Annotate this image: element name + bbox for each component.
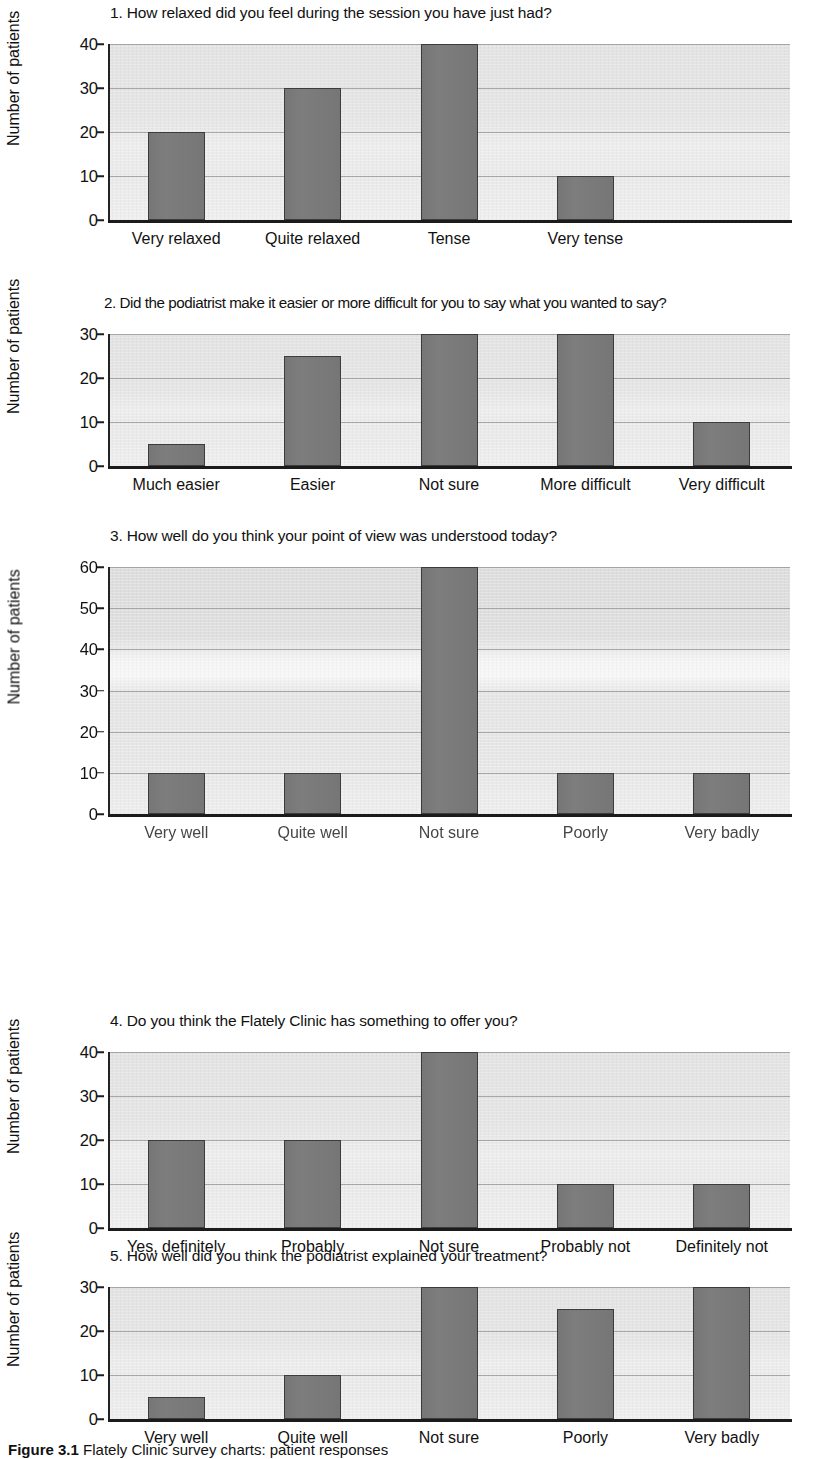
x-axis-line (108, 1228, 792, 1231)
x-tick-label: Very difficult (679, 476, 765, 494)
y-tick-label: 40 (80, 641, 98, 658)
y-axis-line (108, 334, 110, 467)
bar (284, 773, 341, 814)
y-tick-label: 10 (80, 168, 98, 185)
bar (693, 1184, 750, 1228)
x-tick-label: Easier (290, 476, 335, 494)
y-axis-ticks: 0102030 (60, 1287, 104, 1419)
bar (421, 334, 478, 466)
chart-q5: 5. How well did you think the podiatrist… (0, 1265, 826, 1459)
x-tick-label: Quite well (277, 824, 347, 842)
y-axis-line (108, 567, 110, 815)
x-tick-label: Quite relaxed (265, 230, 360, 248)
plot-area (108, 44, 790, 220)
y-axis-label: Number of patients (0, 567, 28, 814)
y-tick-mark (97, 1330, 104, 1332)
y-tick-label: 20 (80, 124, 98, 141)
bar (693, 422, 750, 466)
x-tick-label: Not sure (419, 1429, 479, 1447)
y-tick-mark (97, 1095, 104, 1097)
y-tick-mark (97, 1286, 104, 1288)
y-tick-mark (97, 1418, 104, 1420)
y-tick-label: 10 (80, 1367, 98, 1384)
y-tick-label: 40 (80, 1044, 98, 1061)
y-tick-label: 30 (80, 80, 98, 97)
chart-q2: 2. Did the podiatrist make it easier or … (0, 312, 826, 514)
y-axis-label: Number of patients (0, 44, 28, 220)
x-tick-label: Probably not (540, 1238, 630, 1256)
x-tick-label: Very badly (684, 824, 759, 842)
x-tick-label: Poorly (563, 1429, 608, 1447)
x-axis-line (108, 814, 792, 817)
y-tick-mark (97, 219, 104, 221)
bar (557, 176, 614, 220)
bar (284, 356, 341, 466)
y-tick-mark (97, 1374, 104, 1376)
y-tick-label: 60 (80, 559, 98, 576)
y-tick-mark (97, 649, 104, 651)
y-tick-label: 10 (80, 1176, 98, 1193)
bar (421, 1052, 478, 1228)
x-axis-line (108, 220, 792, 223)
y-tick-label: 20 (80, 723, 98, 740)
bar (284, 1140, 341, 1228)
x-tick-label: Definitely not (676, 1238, 769, 1256)
figure-caption-prefix: Figure (8, 1441, 54, 1458)
bar (557, 1309, 614, 1419)
x-tick-label: More difficult (540, 476, 630, 494)
x-tick-label: Very badly (684, 1429, 759, 1447)
bar (148, 773, 205, 814)
y-tick-label: 20 (80, 370, 98, 387)
chart-title: 1. How relaxed did you feel during the s… (110, 4, 552, 22)
bar (148, 1140, 205, 1228)
y-tick-mark (97, 377, 104, 379)
y-tick-mark (97, 813, 104, 815)
y-tick-mark (97, 607, 104, 609)
y-tick-mark (97, 131, 104, 133)
chart-title: 2. Did the podiatrist make it easier or … (104, 294, 666, 311)
x-tick-label: Very tense (548, 230, 624, 248)
y-axis-label: Number of patients (0, 1287, 28, 1419)
chart-q1: 1. How relaxed did you feel during the s… (0, 22, 826, 268)
y-tick-mark (97, 421, 104, 423)
y-tick-label: 20 (80, 1132, 98, 1149)
y-tick-mark (97, 175, 104, 177)
y-tick-mark (97, 1183, 104, 1185)
figure-caption-text: Flately Clinic survey charts: patient re… (83, 1441, 388, 1458)
bar (557, 773, 614, 814)
y-axis-line (108, 44, 110, 221)
plot-area (108, 1287, 790, 1419)
y-tick-mark (97, 1051, 104, 1053)
y-axis-ticks: 010203040 (60, 44, 104, 220)
x-tick-label: Very relaxed (132, 230, 221, 248)
x-tick-label: Poorly (563, 824, 608, 842)
y-tick-mark (97, 43, 104, 45)
bar (693, 1287, 750, 1419)
plot-area (108, 1052, 790, 1228)
bar (284, 88, 341, 220)
x-tick-label: Tense (428, 230, 471, 248)
y-tick-mark (97, 690, 104, 692)
y-tick-label: 10 (80, 765, 98, 782)
chart-title: 5. How well did you think the podiatrist… (110, 1247, 547, 1265)
y-axis-ticks: 0102030405060 (60, 567, 104, 814)
y-tick-label: 10 (80, 414, 98, 431)
chart-q3: 3. How well do you think your point of v… (0, 545, 826, 862)
x-tick-label: Very well (144, 824, 208, 842)
bar (557, 1184, 614, 1228)
y-tick-label: 30 (80, 682, 98, 699)
y-tick-mark (97, 465, 104, 467)
y-tick-label: 30 (80, 1279, 98, 1296)
y-tick-mark (97, 1227, 104, 1229)
plot-area (108, 567, 790, 814)
y-axis-line (108, 1052, 110, 1229)
y-axis-ticks: 0102030 (60, 334, 104, 466)
y-tick-mark (97, 566, 104, 568)
y-axis-ticks: 010203040 (60, 1052, 104, 1228)
bar (284, 1375, 341, 1419)
x-tick-label: Not sure (419, 476, 479, 494)
figure-page: 1. How relaxed did you feel during the s… (0, 0, 826, 1459)
y-tick-label: 50 (80, 600, 98, 617)
y-axis-label: Number of patients (0, 334, 28, 466)
bar (693, 773, 750, 814)
